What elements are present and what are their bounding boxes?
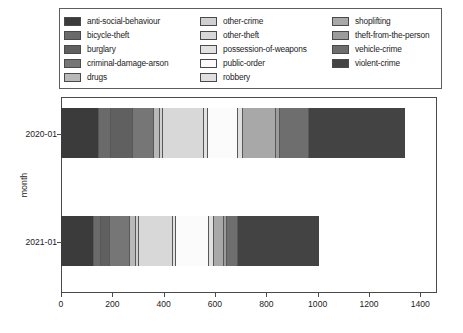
legend-column-1: anti-social-behaviourbicycle-theftburgla… (64, 14, 200, 85)
bar-segment-anti-social-behaviour[interactable] (61, 216, 94, 266)
x-tick-mark-600 (215, 293, 216, 297)
legend-label: burglary (87, 45, 116, 54)
bar-2021-01[interactable] (61, 216, 319, 266)
legend-swatch-icon-criminal-damage-arson (64, 59, 81, 68)
legend-label: drugs (87, 73, 107, 82)
x-tick-mark-1200 (369, 293, 370, 297)
legend-label: robbery (223, 73, 250, 82)
legend-swatch-icon-other-theft (200, 31, 217, 40)
legend-column-3: shopliftingtheft-from-the-personvehicle-… (332, 14, 429, 71)
x-tick-mark-200 (112, 293, 113, 297)
legend-swatch-icon-drugs (64, 73, 81, 82)
legend-entry-other-theft[interactable]: other-theft (200, 28, 332, 42)
legend-label: other-theft (223, 31, 259, 40)
bar-segment-violent-crime[interactable] (309, 108, 405, 158)
legend-swatch-icon-violent-crime (332, 59, 349, 68)
x-tick-label-800: 800 (246, 299, 286, 309)
stacked-bar-chart-figure: anti-social-behaviourbicycle-theftburgla… (0, 0, 463, 333)
bar-segment-violent-crime[interactable] (238, 216, 319, 266)
bar-segment-burglary[interactable] (101, 216, 110, 266)
legend-entry-bicycle-theft[interactable]: bicycle-theft (64, 28, 200, 42)
bar-segment-other-theft[interactable] (139, 216, 172, 266)
legend-entry-vehicle-crime[interactable]: vehicle-crime (332, 42, 429, 56)
y-tick-mark-2020-01 (57, 134, 62, 135)
legend-label: bicycle-theft (87, 31, 129, 40)
legend-label: public-order (223, 59, 265, 68)
x-tick-label-1000: 1000 (298, 299, 338, 309)
bar-segment-criminal-damage-arson[interactable] (110, 216, 131, 266)
legend-entry-shoplifting[interactable]: shoplifting (332, 14, 429, 28)
legend-label: other-crime (223, 17, 263, 26)
x-tick-mark-1000 (318, 293, 319, 297)
x-tick-mark-400 (164, 293, 165, 297)
legend-swatch-icon-other-crime (200, 17, 217, 26)
legend-entry-possession-of-weapons[interactable]: possession-of-weapons (200, 42, 332, 56)
bar-segment-bicycle-theft[interactable] (99, 108, 111, 158)
legend-entry-violent-crime[interactable]: violent-crime (332, 57, 429, 71)
legend-entry-criminal-damage-arson[interactable]: criminal-damage-arson (64, 57, 200, 71)
bar-segment-shoplifting[interactable] (243, 108, 275, 158)
legend-swatch-icon-shoplifting (332, 17, 349, 26)
legend-entry-theft-from-the-person[interactable]: theft-from-the-person (332, 28, 429, 42)
x-tick-mark-800 (266, 293, 267, 297)
bar-segment-anti-social-behaviour[interactable] (61, 108, 99, 158)
legend-swatch-icon-public-order (200, 59, 217, 68)
y-tick-label-2020-01: 2020-01 (5, 129, 57, 139)
bar-segment-burglary[interactable] (111, 108, 133, 158)
legend-entry-public-order[interactable]: public-order (200, 57, 332, 71)
legend-column-2: other-crimeother-theftpossession-of-weap… (200, 14, 332, 85)
legend-swatch-icon-burglary (64, 45, 81, 54)
x-tick-label-1400: 1400 (400, 299, 440, 309)
legend-entry-robbery[interactable]: robbery (200, 71, 332, 85)
x-tick-label-600: 600 (195, 299, 235, 309)
legend-swatch-icon-robbery (200, 73, 217, 82)
chart-legend: anti-social-behaviourbicycle-theftburgla… (59, 8, 442, 89)
legend-label: possession-of-weapons (223, 45, 307, 54)
bar-segment-other-theft[interactable] (163, 108, 204, 158)
legend-entry-drugs[interactable]: drugs (64, 71, 200, 85)
bar-segment-public-order[interactable] (176, 216, 209, 266)
legend-entry-anti-social-behaviour[interactable]: anti-social-behaviour (64, 14, 200, 28)
bar-segment-vehicle-crime[interactable] (280, 108, 309, 158)
bar-segment-vehicle-crime[interactable] (227, 216, 238, 266)
bar-segment-public-order[interactable] (208, 108, 238, 158)
x-tick-label-200: 200 (92, 299, 132, 309)
bar-segment-shoplifting[interactable] (214, 216, 224, 266)
bar-2020-01[interactable] (61, 108, 405, 158)
legend-swatch-icon-vehicle-crime (332, 45, 349, 54)
legend-entry-other-crime[interactable]: other-crime (200, 14, 332, 28)
bar-segment-criminal-damage-arson[interactable] (133, 108, 154, 158)
x-tick-mark-0 (61, 293, 62, 297)
legend-label: violent-crime (355, 59, 400, 68)
legend-swatch-icon-theft-from-the-person (332, 31, 349, 40)
x-tick-label-1200: 1200 (349, 299, 389, 309)
legend-swatch-icon-possession-of-weapons (200, 45, 217, 54)
y-tick-mark-2021-01 (57, 242, 62, 243)
x-tick-label-400: 400 (144, 299, 184, 309)
legend-label: theft-from-the-person (355, 31, 429, 40)
legend-label: anti-social-behaviour (87, 17, 160, 26)
legend-label: criminal-damage-arson (87, 59, 168, 68)
legend-swatch-icon-anti-social-behaviour (64, 17, 81, 26)
legend-swatch-icon-bicycle-theft (64, 31, 81, 40)
legend-label: shoplifting (355, 17, 391, 26)
legend-entry-burglary[interactable]: burglary (64, 42, 200, 56)
x-tick-mark-1400 (420, 293, 421, 297)
legend-label: vehicle-crime (355, 45, 402, 54)
x-tick-label-0: 0 (41, 299, 81, 309)
y-axis-label: month (19, 155, 29, 215)
y-tick-label-2021-01: 2021-01 (5, 237, 57, 247)
